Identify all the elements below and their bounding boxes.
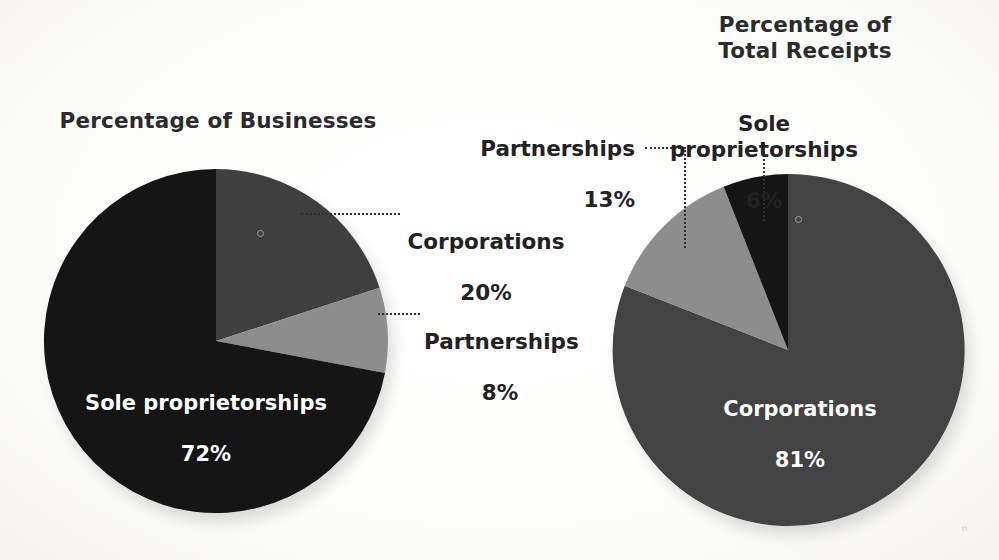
right-pie-chart bbox=[612, 174, 964, 526]
left-leader-line-partnerships bbox=[378, 313, 420, 315]
left-slice-label-percent: 72% bbox=[181, 442, 231, 466]
left-leader-line-corporations bbox=[301, 213, 400, 215]
right-chart-title: Percentage of Total Receipts bbox=[645, 12, 965, 64]
right-callout-partnerships: Partnerships 13% bbox=[480, 110, 635, 213]
right-callout-sole-proprietorships-name: Sole proprietorships bbox=[670, 111, 858, 162]
right-callout-sole-proprietorships: Sole proprietorships 6% bbox=[642, 85, 886, 214]
right-slice-label-name: Corporations bbox=[723, 397, 876, 421]
right-slice-label-corporations: Corporations 81% bbox=[680, 372, 920, 473]
left-callout-partnerships-percent: 8% bbox=[482, 380, 519, 405]
chart-page: Percentage of Businesses Sole proprietor… bbox=[0, 0, 999, 560]
left-slice-label-name: Sole proprietorships bbox=[85, 391, 327, 415]
left-callout-partnerships-name: Partnerships bbox=[424, 329, 579, 354]
left-chart-title: Percentage of Businesses bbox=[58, 108, 378, 134]
left-pie-registration-dot bbox=[257, 230, 264, 237]
page-corner-mark: ⁿ bbox=[960, 522, 970, 541]
left-callout-corporations: Corporations 20% bbox=[406, 203, 566, 306]
left-callout-corporations-name: Corporations bbox=[408, 229, 565, 254]
left-callout-corporations-percent: 20% bbox=[460, 280, 511, 305]
right-callout-partnerships-percent: 13% bbox=[584, 187, 635, 212]
right-slice-label-percent: 81% bbox=[775, 448, 825, 472]
right-pie-svg bbox=[612, 174, 964, 526]
right-callout-partnerships-name: Partnerships bbox=[480, 136, 635, 161]
left-callout-partnerships: Partnerships 8% bbox=[424, 303, 576, 406]
left-slice-label-sole-proprietorships: Sole proprietorships 72% bbox=[76, 366, 336, 467]
right-callout-sole-proprietorships-percent: 6% bbox=[746, 188, 783, 213]
right-pie-registration-dot bbox=[795, 216, 802, 223]
